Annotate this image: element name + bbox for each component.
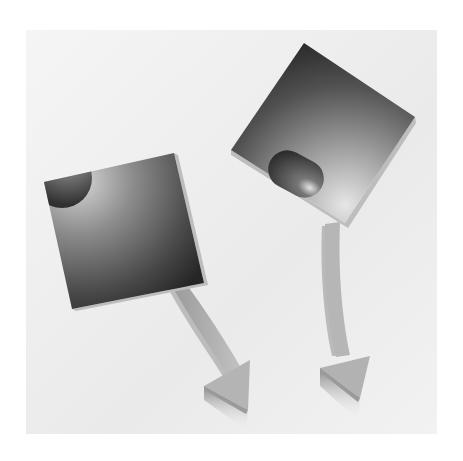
illustration: [0, 0, 463, 461]
